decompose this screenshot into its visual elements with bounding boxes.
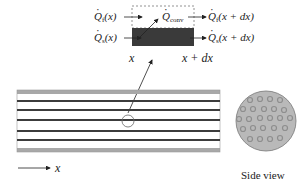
side-view-label: Side view [241,169,285,181]
tube-lines [17,101,220,140]
qconv-label: Qconv [162,11,184,24]
x-left-label: x [129,52,134,64]
side-view-disk [236,91,296,151]
qf-out-label: Qf(x + dx) [208,11,254,24]
solid-element-block [132,28,194,46]
x-right-label: x + dx [182,52,213,64]
diagram-canvas [0,0,307,188]
pipe-top-wall [17,90,220,94]
qs-out-label: Qs(x + dx) [208,32,254,45]
zoom-pointer-arrow [128,60,152,113]
qf-in-label: Qf(x) [94,11,117,24]
axis-x-label: x [55,162,60,174]
pipe-bottom-wall [17,148,220,152]
qs-in-label: Qs(x) [94,32,117,45]
